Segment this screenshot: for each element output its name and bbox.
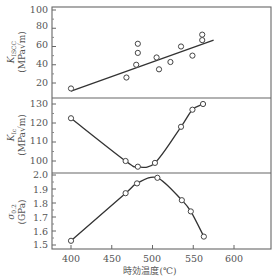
p1-label-unit: (MPa√m) — [17, 31, 27, 73]
p2-y-tick-labels: 100 110 120 130 — [30, 98, 48, 166]
p3-tick-1-9: 1.9 — [33, 184, 48, 195]
kiscc-data-point — [200, 38, 205, 43]
sigma-data-point — [201, 234, 206, 239]
kiscc-data-point — [200, 32, 205, 37]
kic-data-point — [152, 160, 157, 165]
svg-text:KIc: KIc — [6, 128, 17, 142]
p3-tick-1-7: 1.7 — [33, 212, 48, 223]
kic-data-point — [200, 101, 205, 106]
plot-frame — [52, 7, 271, 249]
p2-tick-110: 110 — [30, 135, 48, 146]
kic-data-point — [135, 164, 140, 169]
kic-data-point — [178, 124, 183, 129]
axis-ticks — [52, 10, 234, 249]
p1-tick-20: 20 — [36, 77, 48, 88]
p1-y-axis-label: KISCC (MPa√m) — [6, 31, 27, 73]
sigma-fit-curve — [71, 177, 204, 241]
p2-tick-120: 120 — [30, 117, 48, 128]
kiscc-fit-line — [71, 40, 214, 91]
p2-label-unit: (MPa√m) — [17, 114, 27, 156]
p3-y-tick-labels: 1.5 1.6 1.7 1.8 1.9 2.0 — [33, 169, 48, 250]
kiscc-data-point — [154, 55, 159, 60]
p2-tick-130: 130 — [30, 98, 48, 109]
sigma-data-point — [134, 181, 139, 186]
kic-data-point — [190, 107, 195, 112]
x-tick-500: 500 — [143, 253, 161, 264]
p1-tick-80: 80 — [36, 20, 48, 31]
p1-tick-100: 100 — [30, 4, 48, 15]
x-axis-label: 時効温度(℃) — [123, 265, 176, 276]
kic-fit-curve — [71, 104, 203, 167]
p3-label-sub: 0.2 — [10, 204, 17, 214]
x-tick-400: 400 — [62, 253, 80, 264]
kiscc-data-point — [156, 67, 161, 72]
svg-text:KISCC: KISCC — [6, 40, 17, 64]
kiscc-data-point — [135, 41, 140, 46]
p2-y-axis-label: KIc (MPa√m) — [6, 114, 27, 156]
p3-label-unit: (GPa) — [17, 199, 27, 224]
x-axis-tick-labels: 400 450 500 550 600 — [62, 253, 243, 264]
sigma-data-point — [155, 175, 160, 180]
p1-tick-60: 60 — [36, 39, 48, 50]
svg-text:σ0.2: σ0.2 — [6, 204, 17, 220]
sigma-data-point — [123, 191, 128, 196]
sigma-data-point — [68, 238, 73, 243]
p3-tick-2-0: 2.0 — [33, 169, 48, 180]
p1-y-tick-labels: 20 40 60 80 100 — [30, 4, 48, 88]
sigma-data-point — [179, 198, 184, 203]
data-points — [68, 32, 206, 243]
p3-y-axis-label: σ0.2 (GPa) — [6, 199, 27, 224]
p3-tick-1-8: 1.8 — [33, 198, 48, 209]
p2-label-sub: Ic — [10, 128, 17, 134]
sigma-data-point — [188, 209, 193, 214]
kiscc-data-point — [168, 59, 173, 64]
x-tick-450: 450 — [103, 253, 121, 264]
kiscc-data-point — [134, 62, 139, 67]
kic-data-point — [123, 158, 128, 163]
p1-label-sub: ISCC — [10, 40, 17, 56]
kic-data-point — [68, 116, 73, 121]
p3-tick-1-6: 1.6 — [33, 226, 48, 237]
kiscc-data-point — [124, 75, 129, 80]
x-tick-600: 600 — [225, 253, 243, 264]
p2-tick-100: 100 — [30, 155, 48, 166]
kiscc-data-point — [190, 53, 195, 58]
kiscc-data-point — [135, 50, 140, 55]
x-tick-550: 550 — [185, 253, 203, 264]
p1-tick-40: 40 — [36, 58, 48, 69]
p3-tick-1-5: 1.5 — [33, 239, 48, 250]
aging-temperature-chart: 400 450 500 550 600 時効温度(℃) 20 40 60 80 … — [0, 0, 272, 278]
kiscc-data-point — [68, 86, 73, 91]
kiscc-data-point — [178, 44, 183, 49]
